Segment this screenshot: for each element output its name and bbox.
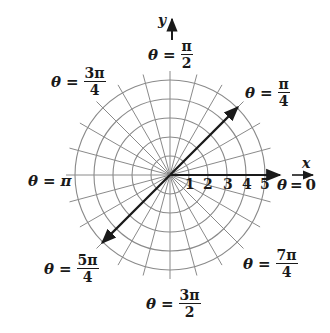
ray-5pi-over-4-arrow (102, 175, 170, 243)
radius-tick-2: 2 (203, 176, 213, 192)
radial-line (170, 175, 222, 265)
label-theta-pi-over-4: θ= π4 (245, 77, 290, 108)
radial-line (80, 123, 170, 175)
radius-tick-3: 3 (223, 176, 233, 192)
radial-line (70, 148, 171, 175)
radius-tick-4: 4 (242, 176, 252, 192)
radius-tick-5: 5 (260, 176, 270, 192)
radial-line (170, 75, 197, 176)
y-axis-label: y (158, 12, 166, 28)
x-axis-label: x (302, 155, 310, 171)
label-theta-7pi-over-4: θ= 7π4 (243, 248, 298, 279)
label-theta-3pi-over-2: θ= 3π2 (146, 288, 201, 319)
label-theta-0: θ= 0 (277, 176, 316, 194)
radial-line (170, 148, 271, 175)
label-theta-3pi-over-4: θ= 3π4 (51, 66, 106, 97)
label-theta-5pi-over-4: θ= 5π4 (44, 253, 99, 284)
radius-tick-1: 1 (185, 176, 195, 192)
radial-line (70, 175, 171, 202)
label-theta-pi: θ= π (28, 172, 72, 190)
label-theta-pi-over-2: θ= π2 (148, 39, 193, 70)
ray-pi-over-4-arrow (170, 107, 238, 175)
radial-line (143, 75, 170, 176)
radial-line (143, 175, 170, 276)
radial-line (118, 85, 170, 175)
